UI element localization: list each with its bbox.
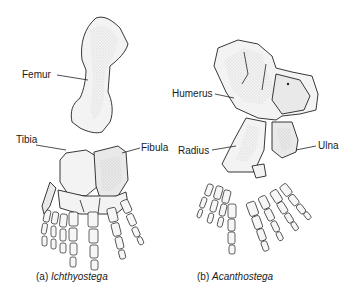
- ichthyostega-limb: [36, 17, 144, 270]
- caption-a: (a) Ichthyostega: [36, 271, 108, 283]
- label-femur: Femur: [22, 69, 51, 81]
- caption-b-prefix: (b): [197, 271, 209, 282]
- label-fibula: Fibula: [141, 142, 168, 154]
- label-ulna: Ulna: [318, 140, 339, 152]
- bone-illustrations: [0, 0, 351, 295]
- label-humerus: Humerus: [172, 88, 213, 100]
- caption-a-prefix: (a): [36, 271, 48, 282]
- caption-b-taxon: Acanthostega: [212, 271, 273, 282]
- caption-a-taxon: Ichthyostega: [51, 271, 108, 282]
- acanthostega-digits: [196, 183, 311, 254]
- acanthostega-limb: [196, 40, 318, 254]
- label-tibia: Tibia: [16, 134, 37, 146]
- ichthyostega-digits: [41, 182, 144, 270]
- caption-b: (b) Acanthostega: [197, 271, 273, 283]
- label-radius: Radius: [178, 145, 209, 157]
- limb-bone-figure: Femur Tibia Fibula Humerus Radius Ulna (…: [0, 0, 351, 295]
